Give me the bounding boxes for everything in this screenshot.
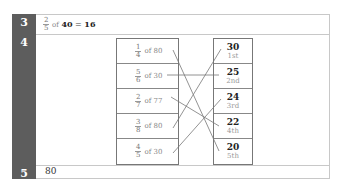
matching-lines <box>37 35 331 167</box>
answer-list: 30 1st 25 2nd 24 3rd 22 4th 20 5th <box>213 38 253 165</box>
matching-area: 14 of 80 56 of 30 27 of 77 38 of 80 45 <box>37 35 329 165</box>
result-value: 16 <box>84 19 95 29</box>
answer-value: 80 <box>45 166 56 176</box>
whole-value: 40 <box>61 19 72 29</box>
question-row-3: 3 2 5 of 40 = 16 <box>12 14 330 35</box>
fraction-equation: 2 5 of 40 = 16 <box>43 17 95 32</box>
question-row-4: 4 14 of 80 56 of 30 27 of 77 38 of 80 <box>12 34 330 166</box>
worksheet: 3 2 5 of 40 = 16 4 14 of 80 <box>12 14 330 179</box>
answer-cell: 80 <box>37 166 329 178</box>
question-number: 5 <box>12 165 36 179</box>
question-number: 3 <box>12 14 36 35</box>
question-row-5: 5 80 <box>12 165 330 179</box>
answer-item[interactable]: 30 1st <box>214 39 252 64</box>
question-number: 4 <box>12 34 36 166</box>
answer-item[interactable]: 25 2nd <box>214 64 252 89</box>
answer-item[interactable]: 20 5th <box>214 139 252 164</box>
answer-cell: 2 5 of 40 = 16 <box>37 15 329 34</box>
fraction: 2 5 <box>43 17 49 32</box>
answer-item[interactable]: 22 4th <box>214 114 252 139</box>
answer-item[interactable]: 24 3rd <box>214 89 252 114</box>
match-line <box>171 97 219 126</box>
